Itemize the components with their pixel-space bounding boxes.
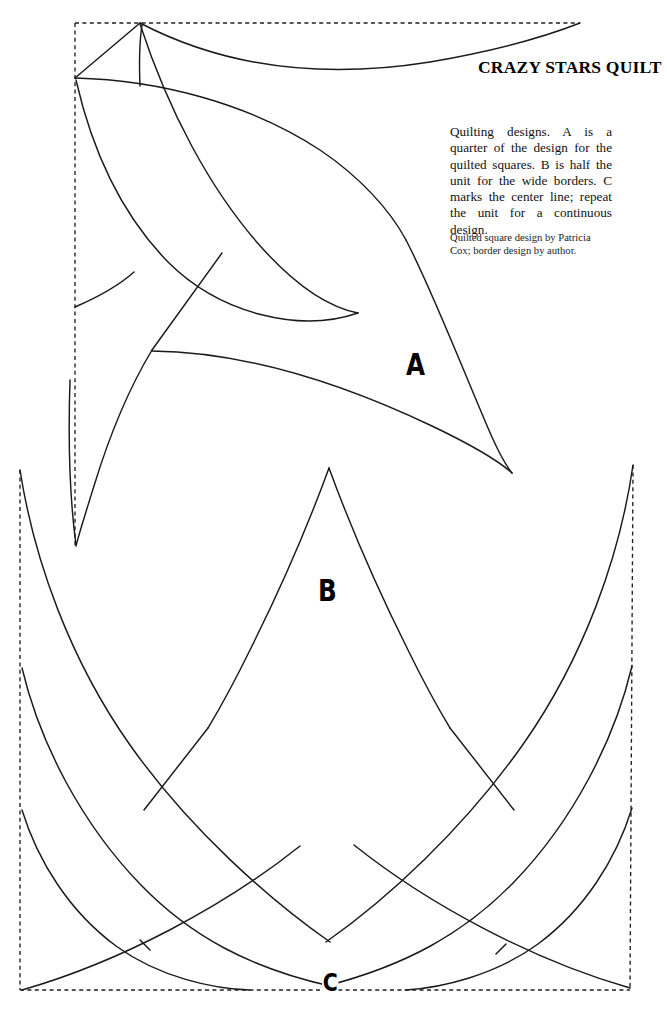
right-spoke-lower xyxy=(496,944,506,954)
panel-a-star-motif xyxy=(69,23,580,546)
motif-spoke-upper-left xyxy=(75,23,140,78)
design-credit: Quilted square design by Patricia Cox; b… xyxy=(450,231,610,257)
left-curve-outer xyxy=(20,470,330,942)
panel-label-a: A xyxy=(406,350,425,380)
left-curve-inner xyxy=(22,810,250,990)
right-curve-mid xyxy=(326,666,632,986)
left-curve-baseline xyxy=(22,846,300,990)
panel-label-c-text: C xyxy=(322,968,339,997)
panel-b-dashed-border xyxy=(20,465,633,990)
left-spoke-upper xyxy=(144,728,208,810)
left-curve-mid xyxy=(22,668,330,986)
pattern-sheet: .ln { fill: none; stroke: #1a1a1a; strok… xyxy=(0,0,667,1023)
motif-arc-left-descending xyxy=(76,350,152,546)
right-curve-outer xyxy=(326,465,633,942)
peak-right-flank xyxy=(329,468,450,728)
panel-label-c: C xyxy=(322,970,339,995)
panel-b-right-edge xyxy=(630,465,633,990)
motif-arc-center-to-tip xyxy=(152,351,512,473)
panel-label-b: B xyxy=(318,576,337,606)
peak-left-flank xyxy=(208,468,329,728)
right-curve-baseline xyxy=(354,845,630,988)
design-description: Quilting designs. A is a quarter of the … xyxy=(450,124,612,238)
motif-arc-left-horizontal xyxy=(75,78,406,240)
motif-leaf-upper-edge xyxy=(140,24,358,313)
motif-arc-left-short xyxy=(75,272,134,307)
page-title: CRAZY STARS QUILT xyxy=(478,57,667,78)
right-curve-inner xyxy=(406,808,632,990)
panel-b-border-motif xyxy=(20,465,633,990)
motif-spoke-mid xyxy=(152,253,222,350)
motif-stem-vertical xyxy=(139,25,142,86)
